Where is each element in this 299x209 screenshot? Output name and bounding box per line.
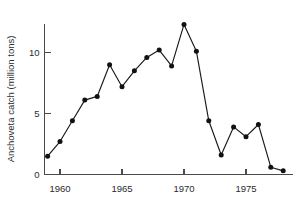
data-point bbox=[206, 118, 211, 123]
data-point bbox=[268, 165, 273, 170]
x-tick-label: 1965 bbox=[111, 183, 132, 194]
x-tick-label: 1960 bbox=[49, 183, 70, 194]
x-tick-label: 1975 bbox=[235, 183, 256, 194]
anchoveta-catch-chart: 0510 1960196519701975 Anchoveta catch (m… bbox=[0, 0, 299, 209]
data-point bbox=[244, 134, 249, 139]
y-tick-label: 0 bbox=[34, 169, 39, 180]
data-point bbox=[219, 152, 224, 157]
data-point bbox=[45, 154, 50, 159]
data-point bbox=[82, 98, 87, 103]
y-tick-group: 0510 bbox=[29, 47, 51, 180]
data-point bbox=[132, 68, 137, 73]
data-point bbox=[281, 168, 286, 173]
y-tick-label: 10 bbox=[29, 47, 40, 58]
data-point-group bbox=[45, 22, 286, 173]
data-point bbox=[58, 139, 63, 144]
chart-canvas: 0510 1960196519701975 Anchoveta catch (m… bbox=[0, 0, 299, 209]
x-axis: 1960196519701975 bbox=[45, 169, 294, 194]
x-tick-group: 1960196519701975 bbox=[49, 169, 256, 194]
data-point bbox=[231, 124, 236, 129]
data-point bbox=[182, 22, 187, 27]
data-point bbox=[144, 55, 149, 60]
y-tick-label: 5 bbox=[34, 108, 39, 119]
x-tick-label: 1970 bbox=[173, 183, 194, 194]
data-point bbox=[256, 122, 261, 127]
data-line-anchoveta bbox=[48, 24, 284, 170]
data-point bbox=[169, 63, 174, 68]
data-point bbox=[95, 94, 100, 99]
data-point bbox=[157, 48, 162, 53]
y-axis-title: Anchoveta catch (million tons) bbox=[5, 36, 16, 163]
data-point bbox=[194, 49, 199, 54]
data-point bbox=[120, 84, 125, 89]
data-point bbox=[107, 62, 112, 67]
data-point bbox=[70, 118, 75, 123]
series-anchoveta-catch bbox=[45, 22, 286, 173]
